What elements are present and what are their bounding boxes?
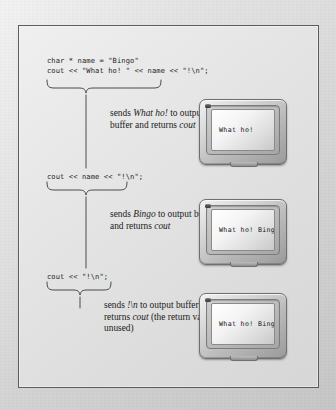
monitor-2-stand	[230, 262, 258, 267]
monitor-3-screen: What ho! Bingo	[211, 303, 275, 345]
annotation-2-emphasis-output: Bingo	[133, 209, 155, 219]
monitor-3-screen-text: What ho! Bingo	[219, 320, 275, 328]
figure-root: char * name = "Bingo" cout << "What ho! …	[0, 0, 336, 410]
monitor-step-3: What ho! Bingo	[199, 293, 287, 359]
monitor-step-2: What ho! Bingo	[199, 199, 287, 265]
annotation-3-emphasis-output: !\n	[127, 300, 137, 310]
monitor-1-bezel: What ho!	[206, 105, 280, 155]
monitor-2-screen-text: What ho! Bingo	[219, 226, 275, 234]
annotation-1-emphasis-output: What ho!	[133, 108, 168, 118]
monitor-3-stand	[230, 356, 258, 361]
annotation-3-lead: sends	[104, 300, 127, 310]
code-block-step-3: cout << "!\n";	[47, 272, 108, 282]
code-line-2-1: cout << name << "!\n";	[47, 172, 143, 181]
power-led-icon	[205, 298, 211, 302]
annotation-1-emphasis-cout: cout	[179, 120, 195, 130]
power-led-icon	[205, 204, 211, 208]
annotation-2-lead: sends	[110, 209, 133, 219]
code-line-1-1: char * name = "Bingo"	[47, 56, 139, 65]
monitor-3-bezel: What ho! Bingo	[206, 299, 280, 349]
monitor-step-1: What ho!	[199, 99, 287, 165]
monitor-1-stand	[230, 162, 258, 167]
monitor-2-screen: What ho! Bingo	[211, 209, 275, 251]
code-block-step-2: cout << name << "!\n";	[47, 172, 143, 182]
monitor-1-screen: What ho!	[211, 109, 275, 151]
power-led-icon	[205, 104, 211, 108]
code-line-1-2: cout << "What ho! " << name << "!\n";	[47, 66, 209, 75]
monitor-2-bezel: What ho! Bingo	[206, 205, 280, 255]
annotation-1-lead: sends	[110, 108, 133, 118]
code-block-step-1: char * name = "Bingo" cout << "What ho! …	[47, 56, 209, 75]
monitor-1-screen-text: What ho!	[219, 126, 254, 134]
annotation-2-emphasis-cout: cout	[154, 221, 170, 231]
annotation-3-emphasis-cout: cout	[132, 312, 148, 322]
code-line-3-1: cout << "!\n";	[47, 272, 108, 281]
